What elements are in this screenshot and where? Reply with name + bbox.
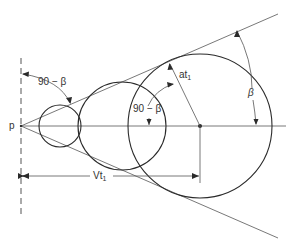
left-angle-arrow-bottom-icon bbox=[66, 97, 72, 104]
center-angle-label: 90 − β bbox=[133, 104, 161, 114]
point-p-dot bbox=[20, 125, 22, 127]
vt1-subscript: 1 bbox=[102, 175, 106, 182]
beta-label: β bbox=[248, 88, 254, 98]
beta-arrow-bottom-icon bbox=[254, 119, 259, 125]
lower-tangent-line bbox=[21, 126, 278, 238]
beta-angle-arc bbox=[237, 31, 252, 88]
vt1-right-arrow-icon bbox=[192, 173, 199, 179]
cone-diagram: p 90 − β 90 − β at1 β Vt1 bbox=[0, 0, 286, 244]
at1-label: at1 bbox=[179, 70, 191, 81]
at1-subscript: 1 bbox=[187, 74, 191, 81]
vt1-left-arrow-icon bbox=[22, 173, 29, 179]
left-angle-arrow-top-icon bbox=[22, 72, 29, 78]
center-angle-down-arrow-icon bbox=[147, 119, 152, 125]
diagram-graphics bbox=[0, 0, 286, 244]
point-p-label: p bbox=[9, 121, 15, 131]
left-angle-label: 90 − β bbox=[38, 77, 66, 87]
center-angle-arrow-icon bbox=[167, 82, 174, 88]
vt1-label: Vt1 bbox=[93, 171, 106, 182]
